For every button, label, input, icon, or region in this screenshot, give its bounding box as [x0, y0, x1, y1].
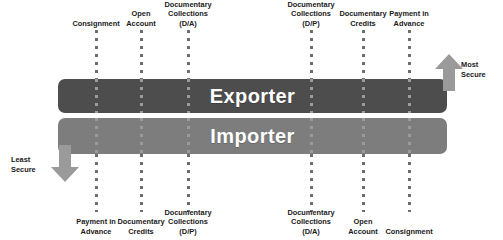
guide-line-column-1	[140, 118, 143, 154]
exporter-tick-label-2-line-1: Collections	[164, 9, 211, 19]
importer-tick-label-1: DocumentaryCredits	[117, 217, 164, 236]
guide-line-column-2	[187, 154, 190, 212]
exporter-tick-label-3: DocumentaryCollections(D/P)	[287, 0, 334, 28]
exporter-tick-label-0: Consignment	[72, 19, 119, 29]
guide-line-column-2	[187, 30, 190, 79]
guide-line-column-5	[408, 118, 411, 154]
guide-line-column-1	[140, 30, 143, 79]
exporter-tick-label-3-line-0: Documentary	[287, 0, 334, 9]
guide-line-column-1	[140, 79, 143, 113]
importer-tick-label-0-line-0: Payment in	[76, 217, 115, 227]
guide-line-column-4	[362, 79, 365, 113]
guide-line-column-4	[362, 154, 365, 212]
importer-tick-label-2-line-1: Collections	[164, 217, 211, 227]
exporter-bar: Exporter	[58, 79, 447, 113]
exporter-tick-label-5-line-1: Advance	[389, 19, 428, 29]
exporter-tick-label-5-line-0: Payment in	[389, 9, 428, 19]
importer-tick-label-2-line-2: (D/P)	[164, 227, 211, 237]
guide-line-column-1	[140, 154, 143, 212]
guide-line-column-5	[408, 79, 411, 113]
guide-line-column-3	[310, 30, 313, 79]
guide-line-column-5	[408, 30, 411, 79]
importer-tick-label-0-line-1: Advance	[76, 227, 115, 237]
importer-tick-label-3: DocumentaryCollections(D/A)	[287, 208, 334, 237]
guide-line-column-0	[95, 79, 98, 113]
importer-tick-label-1-line-0: Documentary	[117, 217, 164, 227]
guide-line-column-5	[408, 154, 411, 212]
importer-tick-label-4: OpenAccount	[348, 217, 378, 236]
guide-line-column-0	[95, 154, 98, 212]
importer-tick-label-0: Payment inAdvance	[76, 217, 115, 236]
guide-line-column-2	[187, 118, 190, 154]
importer-tick-label-2-line-0: Documentary	[164, 208, 211, 218]
exporter-tick-label-2: DocumentaryCollections(D/A)	[164, 0, 211, 28]
exporter-bar-label: Exporter	[210, 85, 295, 108]
importer-tick-label-1-line-1: Credits	[117, 227, 164, 237]
importer-tick-label-5-line-0: Consignment	[385, 227, 432, 237]
importer-bar: Importer	[58, 118, 447, 154]
importer-tick-label-3-line-1: Collections	[287, 217, 334, 227]
diagram-canvas: ConsignmentOpenAccountDocumentaryCollect…	[0, 0, 503, 240]
guide-line-column-3	[310, 79, 313, 113]
exporter-tick-label-2-line-2: (D/A)	[164, 19, 211, 29]
exporter-tick-label-4-line-1: Credits	[339, 19, 386, 29]
exporter-tick-label-5: Payment inAdvance	[389, 9, 428, 28]
exporter-tick-label-0-line-0: Consignment	[72, 19, 119, 29]
least-secure-line-2: Secure	[11, 165, 36, 175]
importer-tick-label-3-line-0: Documentary	[287, 208, 334, 218]
most-secure-line-2: Secure	[461, 70, 486, 80]
exporter-tick-label-1-line-0: Open	[126, 9, 156, 19]
most-secure-arrow-icon	[434, 53, 464, 95]
guide-line-column-0	[95, 30, 98, 79]
exporter-tick-label-3-line-2: (D/P)	[287, 19, 334, 29]
guide-line-column-4	[362, 30, 365, 79]
importer-tick-label-3-line-2: (D/A)	[287, 227, 334, 237]
importer-tick-label-5: Consignment	[385, 227, 432, 237]
exporter-tick-label-1: OpenAccount	[126, 9, 156, 28]
exporter-tick-label-2-line-0: Documentary	[164, 0, 211, 9]
exporter-tick-label-4: DocumentaryCredits	[339, 9, 386, 28]
guide-line-column-4	[362, 118, 365, 154]
importer-tick-label-2: DocumentaryCollections(D/P)	[164, 208, 211, 237]
exporter-tick-label-1-line-1: Account	[126, 19, 156, 29]
importer-tick-label-4-line-1: Account	[348, 227, 378, 237]
least-secure-arrow-icon	[50, 145, 80, 187]
exporter-tick-label-3-line-1: Collections	[287, 9, 334, 19]
most-secure-label: Most Secure	[461, 60, 486, 79]
guide-line-column-3	[310, 154, 313, 212]
guide-line-column-3	[310, 118, 313, 154]
most-secure-line-1: Most	[461, 60, 486, 70]
guide-line-column-2	[187, 79, 190, 113]
least-secure-line-1: Least	[11, 155, 36, 165]
importer-tick-label-4-line-0: Open	[348, 217, 378, 227]
importer-bar-label: Importer	[210, 125, 294, 148]
guide-line-column-0	[95, 118, 98, 154]
exporter-tick-label-4-line-0: Documentary	[339, 9, 386, 19]
least-secure-label: Least Secure	[11, 155, 36, 174]
